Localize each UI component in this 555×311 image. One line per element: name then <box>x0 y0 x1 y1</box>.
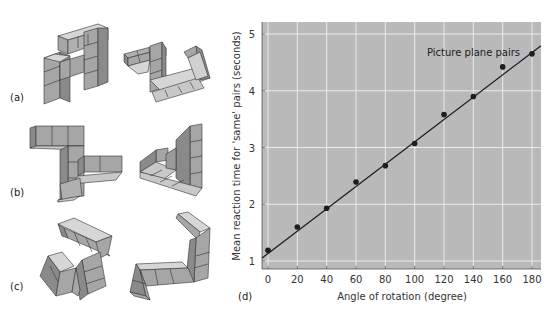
data-point <box>265 247 271 253</box>
data-point <box>383 163 389 169</box>
reaction-time-chart: 02040608010012014016018012345Picture pla… <box>0 0 555 311</box>
y-tick-label: 4 <box>249 86 255 97</box>
x-tick-label: 160 <box>493 274 512 285</box>
x-tick-label: 0 <box>265 274 271 285</box>
data-point <box>471 94 477 100</box>
plot-area <box>262 22 541 269</box>
data-point <box>500 64 506 70</box>
y-axis-label: Mean reaction time for 'same' pairs (sec… <box>231 31 242 261</box>
y-tick-label: 1 <box>249 256 255 267</box>
x-tick-label: 100 <box>405 274 424 285</box>
x-tick-label: 120 <box>434 274 453 285</box>
panel-label-d: (d) <box>238 291 252 302</box>
data-point <box>441 112 447 118</box>
data-point <box>412 141 418 147</box>
y-tick-label: 3 <box>249 143 255 154</box>
data-point <box>324 205 330 211</box>
x-tick-label: 40 <box>320 274 333 285</box>
x-tick-label: 140 <box>464 274 483 285</box>
x-axis-label: Angle of rotation (degree) <box>337 291 467 302</box>
data-point <box>295 224 301 230</box>
chart-svg: 02040608010012014016018012345Picture pla… <box>0 0 555 311</box>
data-point <box>353 179 359 185</box>
x-tick-label: 20 <box>291 274 304 285</box>
y-tick-label: 5 <box>249 29 255 40</box>
x-tick-label: 180 <box>522 274 541 285</box>
x-tick-label: 80 <box>379 274 392 285</box>
series-annotation: Picture plane pairs <box>427 47 520 58</box>
x-tick-label: 60 <box>350 274 363 285</box>
y-tick-label: 2 <box>249 199 255 210</box>
data-point <box>529 51 535 57</box>
